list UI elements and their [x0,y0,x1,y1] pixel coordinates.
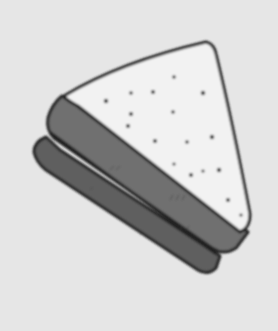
sandwich-drawing [0,0,278,331]
